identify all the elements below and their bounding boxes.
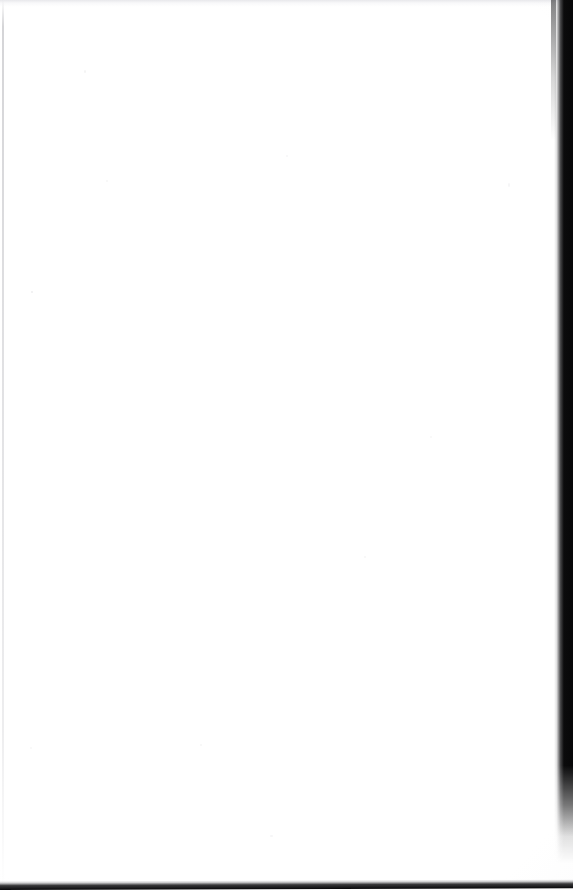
page-paper-surface bbox=[0, 0, 573, 890]
scanned-page bbox=[0, 0, 573, 890]
